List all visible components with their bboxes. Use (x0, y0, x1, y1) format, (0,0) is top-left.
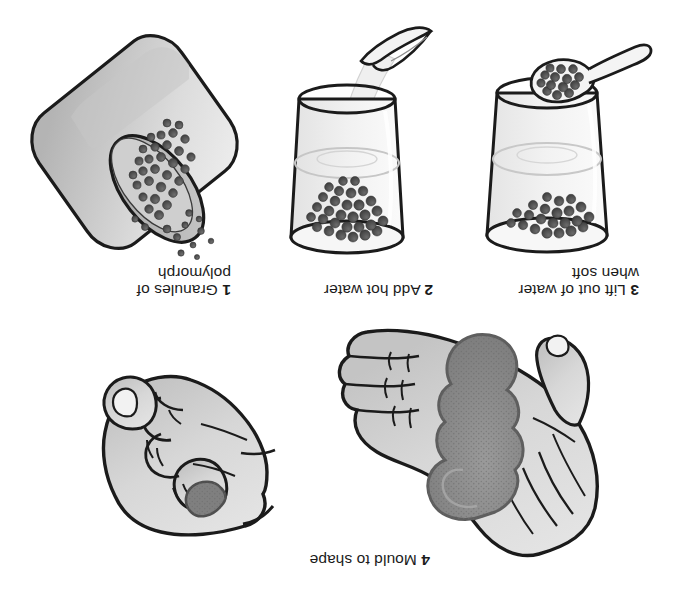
caption-step-1-text: 1 Granules of polymorph (137, 265, 231, 300)
cup-body (32, 36, 237, 259)
illustration-lift-out-of-water (437, 25, 657, 275)
caption-step-3-text: 3 Lift out of water when soft (518, 265, 639, 300)
step-number: 4 (421, 553, 430, 570)
step-number: 1 (222, 283, 231, 300)
panel-step-4-open-hand (335, 310, 635, 560)
illustration-add-hot-water (247, 25, 447, 275)
caption-step-2-text: 2 Add hot water (324, 283, 433, 300)
panel-step-4-fist (71, 350, 291, 550)
step-number: 2 (424, 283, 433, 300)
caption-step-1: 1 Granules of polymorph (41, 265, 231, 318)
step-number: 3 (630, 283, 639, 300)
glass-tumbler (487, 78, 607, 252)
caption-step-4: 4 Mould to shape (230, 552, 430, 587)
panel-step-2 (247, 25, 447, 275)
panel-step-3 (437, 25, 657, 275)
caption-step-4-text: 4 Mould to shape (309, 553, 430, 570)
panel-step-1 (15, 25, 285, 275)
illustration-fist-squeezing-lump (71, 350, 291, 550)
kettle-spout (361, 28, 431, 71)
illustration-granules-of-polymorph (15, 25, 285, 275)
rotated-figure-container: 1 Granules of polymorph (0, 0, 683, 605)
figure-page: 1 Granules of polymorph (0, 0, 683, 605)
illustration-open-hand-with-lump (335, 310, 635, 560)
